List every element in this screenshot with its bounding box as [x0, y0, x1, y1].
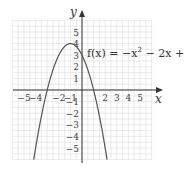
- function-label-suffix: − 2x + 3: [142, 47, 187, 60]
- x-tick-label: 5: [137, 93, 143, 103]
- y-axis-label: y: [69, 5, 77, 19]
- x-tick-label: 3: [114, 93, 120, 103]
- y-tick-label: −5: [66, 144, 80, 154]
- y-tick-label: 5: [73, 28, 79, 38]
- x-axis-label: x: [155, 92, 162, 106]
- x-tick-label: 4: [126, 93, 132, 103]
- y-tick-label: 2: [73, 62, 79, 72]
- y-tick-label: 1: [73, 74, 79, 84]
- y-tick-label: −1: [66, 97, 79, 107]
- y-tick-label: −4: [66, 132, 80, 142]
- y-axis-arrow-icon: [79, 10, 85, 17]
- parabola-chart: −5−4−2−1234554321−1−2−3−4−5 x y f(x) = −…: [0, 0, 187, 172]
- y-tick-label: −2: [66, 109, 79, 119]
- y-tick-label: 3: [73, 51, 79, 61]
- x-tick-label: 2: [102, 93, 108, 103]
- y-tick-label: −3: [66, 120, 80, 130]
- function-label-prefix: f(x) = −x: [87, 47, 138, 60]
- function-label: f(x) = −x2 − 2x + 3: [87, 46, 187, 60]
- x-tick-label: −4: [29, 93, 43, 103]
- y-tick-label: 4: [73, 39, 79, 49]
